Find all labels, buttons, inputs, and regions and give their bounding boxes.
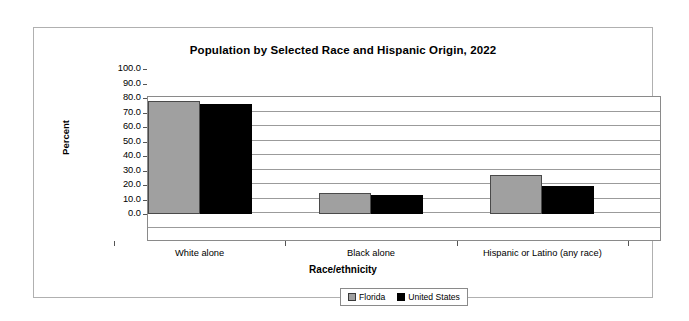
black-swatch	[397, 293, 405, 301]
y-axis-tick-label: 100.0	[101, 64, 141, 73]
y-axis-tick-label: 50.0	[101, 137, 141, 146]
x-axis-tick-mark	[628, 241, 629, 246]
chart-frame: Population by Selected Race and Hispanic…	[33, 27, 653, 298]
x-axis-tick-mark	[114, 241, 115, 246]
y-axis-tick-label: 90.0	[101, 79, 141, 88]
bar-united-states-1	[371, 195, 423, 214]
y-axis-tick-label: 20.0	[101, 180, 141, 189]
y-axis-tick-label: 30.0	[101, 166, 141, 175]
y-axis-tick-label: 80.0	[101, 93, 141, 102]
x-axis-tick-label: Hispanic or Latino (any race)	[432, 248, 652, 258]
y-axis-tick-label: 40.0	[101, 151, 141, 160]
gridline	[148, 227, 660, 228]
y-axis-tick-mark	[143, 69, 147, 70]
y-axis-title: Percent	[60, 103, 71, 173]
bar-florida-1	[319, 193, 371, 214]
y-axis-tick-label: 70.0	[101, 108, 141, 117]
x-axis-title: Race/ethnicity	[34, 264, 652, 275]
x-axis-tick-mark	[285, 241, 286, 246]
y-axis-tick-labels: 100.090.080.070.060.050.040.030.020.010.…	[97, 28, 141, 321]
bar-united-states-0	[200, 104, 252, 214]
legend-label: Florida	[359, 292, 385, 302]
legend-item-united-states: United States	[397, 292, 460, 302]
y-axis-tick-label: 0.0	[101, 209, 141, 218]
legend-item-florida: Florida	[348, 292, 385, 302]
legend-label: United States	[408, 292, 460, 302]
y-axis-tick-label: 10.0	[101, 195, 141, 204]
gray-swatch	[348, 293, 356, 301]
chart-legend: FloridaUnited States	[340, 288, 468, 306]
bar-united-states-2	[542, 186, 594, 214]
bar-florida-0	[148, 101, 200, 214]
y-axis-tick-mark	[143, 84, 147, 85]
x-axis-tick-mark	[457, 241, 458, 246]
bar-florida-2	[490, 175, 542, 214]
y-axis-tick-label: 60.0	[101, 122, 141, 131]
